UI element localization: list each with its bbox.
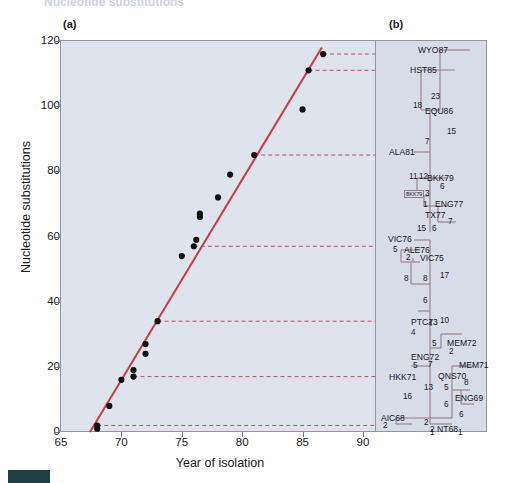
branch-length-label: 18: [413, 101, 422, 110]
branch-length-label: 1: [423, 200, 428, 209]
branch-length-label: 23: [431, 92, 440, 101]
tree-taxon-label: ALA81: [389, 147, 415, 157]
branch-length-label: 2: [424, 418, 429, 427]
tree-taxon-label: HST85: [410, 65, 437, 75]
y-tick-mark: [54, 41, 60, 42]
y-tick-mark: [54, 367, 60, 368]
tree-taxon-label: HKK71: [389, 372, 416, 382]
branch-length-label: 6: [444, 400, 449, 409]
tree-taxon-label: NT68: [437, 424, 458, 434]
branch-length-label: 8: [464, 378, 469, 387]
x-tick-mark: [182, 432, 183, 437]
tree-taxon-label: EQU86: [425, 106, 453, 116]
tree-taxon-label: TX77: [425, 210, 446, 220]
branch-length-label: 2: [383, 421, 388, 430]
x-tick-label: 80: [227, 436, 257, 448]
x-tick-mark: [121, 432, 122, 437]
tree-layer: [0, 0, 515, 483]
branch-length-label: 6: [423, 296, 428, 305]
x-tick-mark: [303, 432, 304, 437]
x-tick-label: 65: [46, 436, 76, 448]
branch-length-label: 15: [417, 224, 426, 233]
tree-taxon-label: ENG69: [455, 393, 483, 403]
y-tick-mark: [54, 302, 60, 303]
page-color-swatch: [8, 470, 50, 483]
branch-length-label: 6: [432, 224, 437, 233]
x-tick-mark: [363, 432, 364, 437]
x-tick-label: 85: [288, 436, 318, 448]
branch-length-label: 5: [432, 339, 437, 348]
tree-taxon-label: ENG77: [435, 199, 463, 209]
tree-taxon-label: MEM71: [459, 360, 489, 370]
x-tick-label: 70: [106, 436, 136, 448]
branch-length-label: 4: [428, 319, 433, 328]
y-tick-mark: [54, 171, 60, 172]
tree-taxon-label: QNS70: [438, 371, 466, 381]
branch-length-label: 2: [449, 347, 454, 356]
x-tick-label: 90: [348, 436, 378, 448]
y-tick-mark: [54, 432, 60, 433]
branch-length-label: 12: [419, 172, 428, 181]
y-tick-mark: [54, 237, 60, 238]
branch-length-label: 6: [440, 182, 445, 191]
branch-length-label: 3: [425, 189, 430, 198]
tree-taxon-label: WYO87: [418, 45, 448, 55]
branch-length-label: 10: [440, 316, 449, 325]
branch-length-label: 15: [447, 127, 456, 136]
x-tick-mark: [242, 432, 243, 437]
branch-length-label: 5: [444, 383, 449, 392]
branch-length-label: 5: [393, 245, 398, 254]
figure-canvas: Nucleotide substitutions (a) (b) 0204060…: [0, 0, 515, 483]
tree-taxon-label: BKK79: [404, 190, 424, 198]
branch-length-label: 7: [448, 217, 453, 226]
y-tick-mark: [54, 106, 60, 107]
tree-taxon-label: VIC76: [388, 234, 412, 244]
tree-taxon-label: PTC73: [411, 317, 438, 327]
branch-length-label: 5: [413, 361, 418, 370]
branch-length-label: 6: [459, 410, 464, 419]
branch-length-label: 4: [411, 328, 416, 337]
branch-length-label: 1: [458, 428, 463, 437]
branch-length-label: 13: [424, 383, 433, 392]
branch-length-label: 8: [423, 274, 428, 283]
branch-length-label: 7: [428, 360, 433, 369]
branch-length-label: 16: [403, 392, 412, 401]
branch-length-label: 11: [409, 172, 418, 181]
tree-taxon-label: VIC75: [420, 253, 444, 263]
x-tick-label: 75: [167, 436, 197, 448]
branch-length-label: 2: [406, 253, 411, 262]
branch-length-label: 7: [425, 137, 430, 146]
branch-length-label: 1: [430, 428, 435, 437]
branch-length-label: 8: [404, 274, 409, 283]
branch-length-label: 17: [440, 271, 449, 280]
